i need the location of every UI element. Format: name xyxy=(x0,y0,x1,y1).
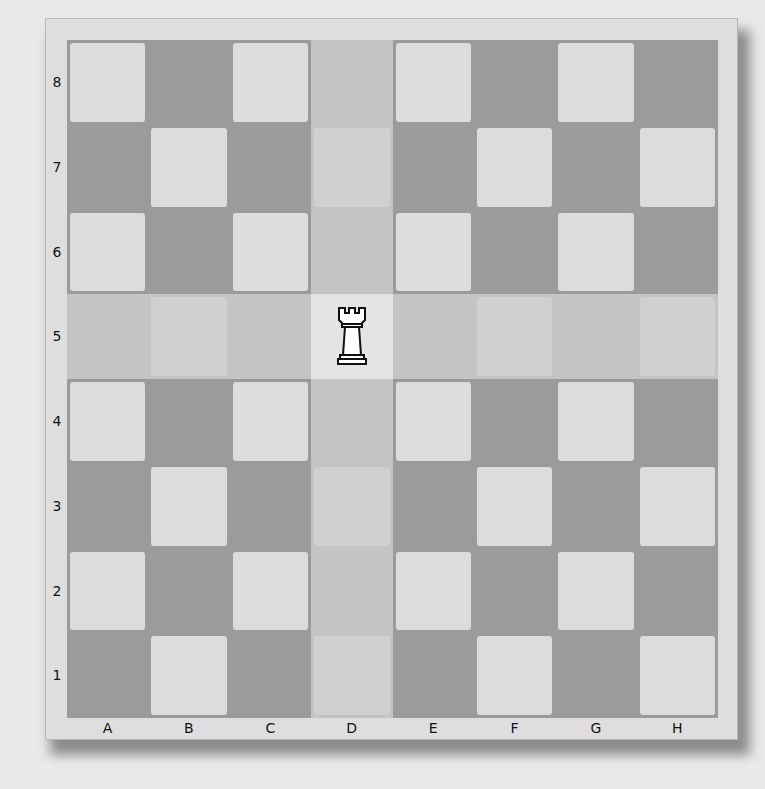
square-h1[interactable] xyxy=(637,633,718,718)
square-g1[interactable] xyxy=(555,633,636,718)
square-b6[interactable] xyxy=(148,210,229,295)
rank-label: 2 xyxy=(48,583,66,599)
rank-label: 7 xyxy=(48,159,66,175)
rank-label: 4 xyxy=(48,413,66,429)
square-a1[interactable] xyxy=(67,633,148,718)
square-a5[interactable] xyxy=(67,294,148,379)
square-g4[interactable] xyxy=(555,379,636,464)
square-e2[interactable] xyxy=(393,549,474,634)
square-c7[interactable] xyxy=(230,125,311,210)
square-c4[interactable] xyxy=(230,379,311,464)
square-d6[interactable] xyxy=(311,210,392,295)
square-c6[interactable] xyxy=(230,210,311,295)
square-a6[interactable] xyxy=(67,210,148,295)
square-d8[interactable] xyxy=(311,40,392,125)
square-d1[interactable] xyxy=(311,633,392,718)
square-c8[interactable] xyxy=(230,40,311,125)
square-f2[interactable] xyxy=(474,549,555,634)
square-c2[interactable] xyxy=(230,549,311,634)
square-e6[interactable] xyxy=(393,210,474,295)
file-label: E xyxy=(393,720,474,736)
square-g2[interactable] xyxy=(555,549,636,634)
rank-label: 1 xyxy=(48,667,66,683)
square-d3[interactable] xyxy=(311,464,392,549)
square-b7[interactable] xyxy=(148,125,229,210)
rank-label: 6 xyxy=(48,244,66,260)
square-g7[interactable] xyxy=(555,125,636,210)
square-e7[interactable] xyxy=(393,125,474,210)
rook-icon xyxy=(335,306,369,368)
square-h8[interactable] xyxy=(637,40,718,125)
square-g3[interactable] xyxy=(555,464,636,549)
square-g8[interactable] xyxy=(555,40,636,125)
square-b8[interactable] xyxy=(148,40,229,125)
square-f8[interactable] xyxy=(474,40,555,125)
square-a4[interactable] xyxy=(67,379,148,464)
square-b3[interactable] xyxy=(148,464,229,549)
square-d2[interactable] xyxy=(311,549,392,634)
square-e8[interactable] xyxy=(393,40,474,125)
square-g5[interactable] xyxy=(555,294,636,379)
square-c1[interactable] xyxy=(230,633,311,718)
square-c5[interactable] xyxy=(230,294,311,379)
square-a3[interactable] xyxy=(67,464,148,549)
square-h5[interactable] xyxy=(637,294,718,379)
square-e5[interactable] xyxy=(393,294,474,379)
square-e1[interactable] xyxy=(393,633,474,718)
rank-label: 5 xyxy=(48,328,66,344)
square-h6[interactable] xyxy=(637,210,718,295)
square-a2[interactable] xyxy=(67,549,148,634)
square-d4[interactable] xyxy=(311,379,392,464)
rank-label: 8 xyxy=(48,74,66,90)
square-d5[interactable] xyxy=(311,294,392,379)
square-d7[interactable] xyxy=(311,125,392,210)
file-label: H xyxy=(637,720,718,736)
square-f6[interactable] xyxy=(474,210,555,295)
square-h2[interactable] xyxy=(637,549,718,634)
square-f5[interactable] xyxy=(474,294,555,379)
file-label: G xyxy=(555,720,636,736)
square-h4[interactable] xyxy=(637,379,718,464)
square-f4[interactable] xyxy=(474,379,555,464)
chess-board xyxy=(67,40,718,718)
file-label: F xyxy=(474,720,555,736)
square-b4[interactable] xyxy=(148,379,229,464)
square-f7[interactable] xyxy=(474,125,555,210)
square-h3[interactable] xyxy=(637,464,718,549)
square-a8[interactable] xyxy=(67,40,148,125)
square-e3[interactable] xyxy=(393,464,474,549)
square-e4[interactable] xyxy=(393,379,474,464)
rank-label: 3 xyxy=(48,498,66,514)
file-label: C xyxy=(230,720,311,736)
square-b5[interactable] xyxy=(148,294,229,379)
square-f3[interactable] xyxy=(474,464,555,549)
square-a7[interactable] xyxy=(67,125,148,210)
square-c3[interactable] xyxy=(230,464,311,549)
square-f1[interactable] xyxy=(474,633,555,718)
square-b2[interactable] xyxy=(148,549,229,634)
file-label: D xyxy=(311,720,392,736)
square-b1[interactable] xyxy=(148,633,229,718)
square-h7[interactable] xyxy=(637,125,718,210)
file-label: B xyxy=(148,720,229,736)
file-label: A xyxy=(67,720,148,736)
square-g6[interactable] xyxy=(555,210,636,295)
